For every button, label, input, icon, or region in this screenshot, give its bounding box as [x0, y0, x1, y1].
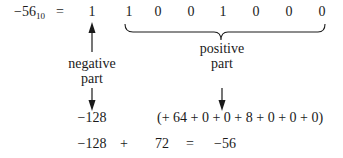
result-negative: −128	[78, 136, 107, 152]
down-arrow-icon	[89, 88, 96, 111]
negative-weight: −128	[78, 110, 107, 126]
result-positive: 72	[155, 136, 169, 152]
negative-part-label-line1: negative	[68, 56, 115, 72]
up-arrow-icon	[89, 22, 96, 52]
positive-weight-sum: (+ 64 + 0 + 0 + 8 + 0 + 0 + 0)	[157, 110, 323, 126]
brace-icon	[125, 24, 325, 40]
result-equals: =	[186, 136, 194, 152]
diagram-lines	[0, 0, 343, 158]
result-total: −56	[214, 136, 236, 152]
result-plus: +	[120, 136, 128, 152]
down-arrow-icon	[219, 88, 226, 111]
negative-part-label-line2: part	[81, 71, 103, 87]
positive-part-label-line2: part	[211, 56, 233, 72]
positive-part-label-line1: positive	[200, 41, 244, 57]
